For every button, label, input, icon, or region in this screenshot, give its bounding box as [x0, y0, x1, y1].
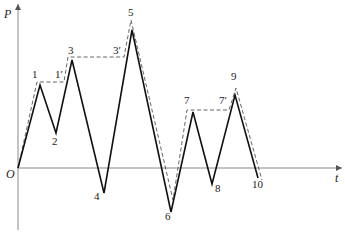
- point-label: 2: [52, 135, 58, 147]
- point-label: 1′: [55, 68, 63, 80]
- point-label: 1: [32, 68, 38, 80]
- point-label: 7: [184, 94, 190, 106]
- point-label: 6: [165, 210, 171, 222]
- point-labels: 1231′3′45677′8910: [32, 6, 264, 222]
- y-axis-label: P: [3, 7, 12, 21]
- dashed-load-path: [18, 20, 262, 200]
- x-axis-label: t: [335, 171, 339, 185]
- point-label: 10: [252, 178, 264, 190]
- point-label: 4: [94, 190, 100, 202]
- point-label: 7′: [219, 94, 227, 106]
- point-label: 9: [231, 70, 237, 82]
- load-time-diagram: P t O 1231′3′45677′8910: [0, 0, 345, 235]
- origin-label: O: [6, 167, 15, 181]
- point-label: 3: [68, 44, 74, 56]
- point-label: 5: [128, 6, 134, 18]
- solid-load-path: [18, 30, 258, 212]
- point-label: 8: [215, 182, 221, 194]
- point-label: 3′: [113, 44, 121, 56]
